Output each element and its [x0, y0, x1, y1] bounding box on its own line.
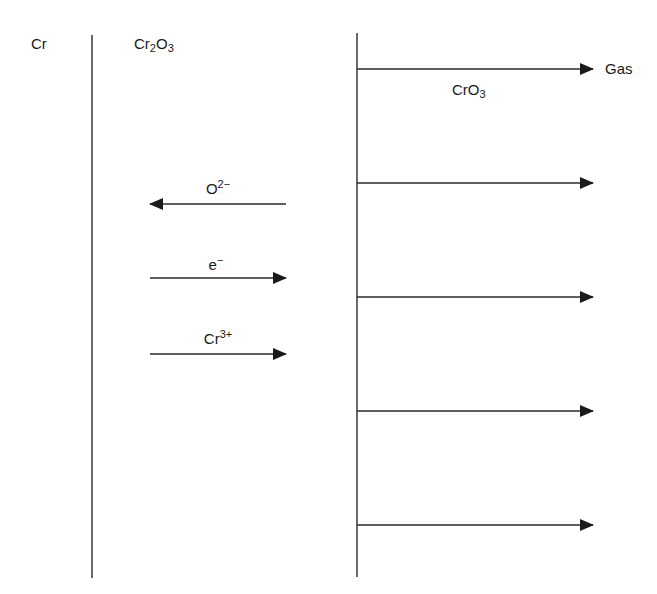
volatile-species-label: CrO3 — [452, 82, 486, 97]
oxygen-ion-label: O2− — [206, 181, 230, 196]
oxide-label: Cr2O3 — [134, 36, 174, 51]
gas-label: Gas — [605, 61, 633, 76]
chromium-ion-label: Cr3+ — [204, 331, 232, 346]
diagram-canvas — [0, 0, 657, 594]
gas-label-text: Gas — [605, 60, 633, 77]
electron-label: e− — [209, 257, 224, 272]
metal-label: Cr — [31, 36, 47, 51]
metal-label-text: Cr — [31, 35, 47, 52]
